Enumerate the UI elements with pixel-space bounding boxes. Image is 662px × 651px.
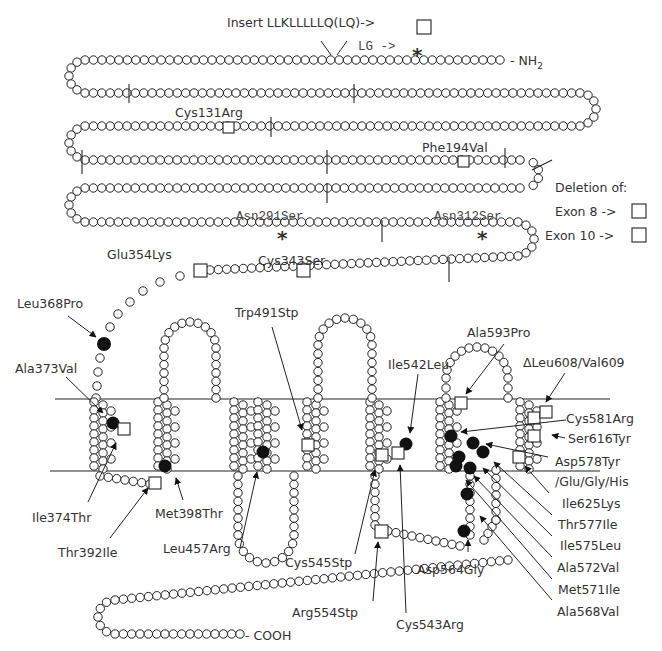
mutation-square-phe194val (458, 156, 469, 167)
mutation-label-deltaleu608: ΔLeu608/Val609 (523, 355, 625, 370)
legend-title: Deletion of: (555, 180, 627, 195)
mutation-label-thr392ile: Thr392Ile (57, 545, 118, 560)
insert-label: Insert LLKLLLLLQ(LQ)-> (227, 15, 375, 30)
mutation-label-ala373val: Ala373Val (15, 361, 77, 376)
mutation-label-ser616tyr: Ser616Tyr (568, 431, 632, 446)
mutation-label-leu457arg: Leu457Arg (163, 541, 231, 556)
mutation-label-arg554stp: Arg554Stp (292, 605, 358, 620)
insert-square-icon (417, 20, 431, 34)
mutation-label-thr577ile: Thr577Ile (557, 517, 618, 532)
mutation-label-asn312ser: Asn312Ser (434, 210, 502, 224)
mutation-label-ile542leu: Ile542Leu (388, 357, 449, 372)
mutation-square-glu354lys (194, 264, 207, 277)
legend-item-exon8: Exon 8 -> (555, 204, 616, 219)
lg-pointer-line (337, 41, 347, 55)
mutation-label-ile374thr: Ile374Thr (32, 510, 92, 525)
asterisk-icon-lg: * (412, 43, 423, 67)
legend-item-exon10: Exon 10 -> (545, 228, 614, 243)
mutation-label-leu368pro: Leu368Pro (17, 296, 83, 311)
amino-acid-chain (65, 56, 600, 638)
mutation-label-met398thr: Met398Thr (155, 506, 224, 521)
mutation-label-ile625lys: Ile625Lys (562, 496, 620, 511)
tshr-topology-diagram: * * * Insert LLKLLLLLQ(LQ)-> LG -> - NH2… (0, 0, 662, 651)
mutation-square-cys131arg (223, 122, 234, 133)
mutation-label-cys581arg: Cys581Arg (566, 411, 634, 426)
mutation-label-cys545stp: Cys545Stp (285, 555, 352, 570)
mutation-label-asp578tyr: Asp578Tyr (555, 454, 621, 469)
asterisk-icon-asn291ser: * (277, 226, 288, 250)
mutation-label-ala568val: Ala568Val (557, 604, 619, 619)
mutation-label-cys543arg: Cys543Arg (396, 617, 464, 632)
lg-label: LG -> (358, 40, 396, 54)
legend-square-exon10 (632, 228, 646, 242)
mutation-label-glu354lys: Glu354Lys (107, 247, 172, 262)
mutation-label-phe194val: Phe194Val (422, 140, 488, 155)
mutation-label-cys343ser: Cys343Ser (258, 253, 326, 268)
mutation-label-asn291ser: Asn291Ser (236, 210, 304, 224)
figure-caption-cropped (60, 641, 660, 651)
mutation-label-cys131arg: Cys131Arg (175, 105, 243, 120)
asterisk-icon-asn312ser: * (477, 226, 488, 250)
legend: Deletion of: Exon 8 -> Exon 10 -> (545, 180, 646, 243)
mutation-label-ile575leu: Ile575Leu (560, 538, 621, 553)
mutation-label-asp564gly: Asp564Gly (417, 562, 485, 577)
mutation-label-ala572val: Ala572Val (557, 560, 619, 575)
mutation-label-trp491stp: Trp491Stp (234, 305, 299, 320)
legend-square-exon8 (632, 204, 646, 218)
insert-pointer-line (321, 41, 331, 55)
mutation-label-ala593pro: Ala593Pro (467, 325, 530, 340)
mutation-label-glu-gly-his: /Glu/Gly/His (555, 474, 629, 489)
mutation-label-met571ile: Met571Ile (558, 582, 620, 597)
n-terminus-label: - NH2 (510, 53, 543, 71)
